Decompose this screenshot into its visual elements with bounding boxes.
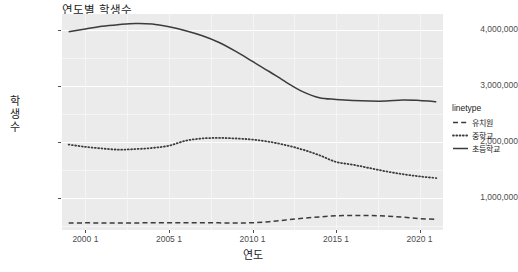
x-axis-title: 연도 [62, 246, 443, 262]
y-tick-label: 3,000,000 [462, 80, 518, 90]
legend-key-swatch [452, 142, 469, 155]
legend-item: 유치원 [452, 116, 500, 129]
legend-item-label: 중학교 [472, 130, 493, 141]
series-line [69, 138, 437, 178]
chart-container: 연도별 학생수 학생수 1,000,0002,000,0003,000,0004… [0, 0, 518, 272]
legend: linetype 유치원중학교초등학교 [452, 103, 500, 155]
x-tick-mark [336, 230, 337, 233]
y-tick-label: 4,000,000 [462, 24, 518, 34]
y-tick-mark [58, 86, 61, 87]
y-axis-title: 학생수 [8, 95, 22, 134]
series-line [69, 23, 437, 101]
legend-item-label: 유치원 [472, 117, 493, 128]
x-tick-label: 2000 1 [72, 234, 98, 244]
series-lines [62, 14, 443, 230]
plot-panel [62, 14, 443, 230]
x-tick-mark [169, 230, 170, 233]
x-tick-label: 2005 1 [156, 234, 182, 244]
y-tick-mark [58, 142, 61, 143]
legend-item: 중학교 [452, 129, 500, 142]
series-line [69, 215, 437, 223]
x-tick-label: 2020 1 [407, 234, 433, 244]
legend-key-swatch [452, 129, 469, 142]
x-tick-label: 2015 1 [323, 234, 349, 244]
legend-title: linetype [452, 103, 500, 113]
y-tick-mark [58, 198, 61, 199]
x-tick-mark [253, 230, 254, 233]
y-tick-label: 1,000,000 [462, 192, 518, 202]
legend-key-swatch [452, 116, 469, 129]
legend-item: 초등학교 [452, 142, 500, 155]
legend-item-label: 초등학교 [472, 143, 500, 154]
y-tick-mark [58, 30, 61, 31]
legend-items: 유치원중학교초등학교 [452, 116, 500, 155]
x-tick-label: 2010 1 [240, 234, 266, 244]
x-tick-mark [85, 230, 86, 233]
x-tick-mark [420, 230, 421, 233]
